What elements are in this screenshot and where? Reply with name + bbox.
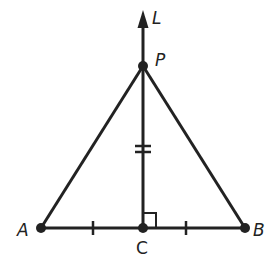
- point-b: [240, 223, 250, 233]
- label-p: P: [155, 50, 166, 70]
- label-a: A: [16, 220, 29, 240]
- label-l: L: [152, 8, 161, 28]
- segment-pb: [143, 66, 245, 228]
- point-a: [36, 223, 46, 233]
- label-c: C: [136, 238, 148, 258]
- label-b: B: [253, 220, 265, 240]
- point-c: [138, 223, 148, 233]
- point-p: [138, 61, 148, 71]
- segment-pa: [41, 66, 143, 228]
- arrowhead-icon: [138, 10, 149, 28]
- perpendicular-bisector-diagram: L P A B C: [0, 0, 279, 263]
